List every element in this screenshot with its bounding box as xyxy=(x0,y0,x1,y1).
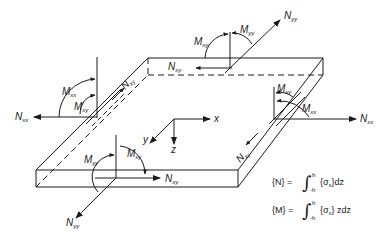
svg-text:{M} =: {M} = xyxy=(272,205,293,215)
front-edge-loads xyxy=(76,135,160,218)
svg-text:{N} =: {N} = xyxy=(272,177,292,187)
myy-back-label: Myy xyxy=(240,24,255,36)
y-axis-label: y xyxy=(142,134,149,145)
svg-text:-h: -h xyxy=(310,187,315,193)
svg-text:{σx}dz: {σx}dz xyxy=(320,177,345,188)
nxy-left-edge-label: Nxy xyxy=(119,74,138,93)
equation-n: {N} = ∫ h -h {σx}dz xyxy=(272,172,345,193)
mxy-front-label: Mxy xyxy=(127,148,142,160)
nyy-top-label: Nyy xyxy=(284,10,298,22)
nyy-bottom-arrow xyxy=(76,178,116,218)
svg-text:-h: -h xyxy=(310,215,315,221)
mxy-back-label: Mxy xyxy=(194,36,209,48)
nxx-right-label: Nxx xyxy=(360,113,374,125)
back-edge-loads xyxy=(196,20,280,73)
x-axis-label: x xyxy=(213,113,220,124)
coordinate-axes xyxy=(150,119,210,144)
y-axis-arrow xyxy=(150,119,174,143)
svg-text:h: h xyxy=(312,200,315,206)
mxy-right-label: Mxy xyxy=(277,83,292,95)
plate-diagram: x y z Nxx Mxx Mxy Nxy Nyy Mxy Myy Nxy Nx… xyxy=(0,0,390,242)
svg-text:{σx} zdz: {σx} zdz xyxy=(320,205,352,216)
mxx-left-label: Mxx xyxy=(62,86,77,98)
right-edge-loads xyxy=(246,87,356,145)
mxy-left-label: Mxy xyxy=(74,101,89,113)
myy-front-label: Myy xyxy=(84,154,99,166)
nyy-bottom-label: Nyy xyxy=(66,217,80,229)
mxx-right-label: Mxx xyxy=(302,103,317,115)
nxy-back-label: Nxy xyxy=(168,61,182,73)
nxx-left-label: Nxx xyxy=(15,111,29,123)
equation-m: {M} = ∫ h -h {σx} zdz xyxy=(272,200,352,221)
nxy-right-edge-label: Nxy xyxy=(234,147,253,166)
svg-text:h: h xyxy=(312,172,315,178)
z-axis-label: z xyxy=(170,144,176,155)
nxy-front-label: Nxy xyxy=(165,173,179,185)
nyy-top-arrow xyxy=(230,20,280,68)
left-edge-loads xyxy=(34,57,124,126)
